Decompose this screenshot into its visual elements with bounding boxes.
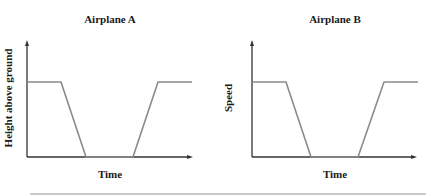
chart-airplane-a: Airplane A Height above ground Time xyxy=(0,0,213,196)
plot-area xyxy=(213,0,426,196)
plot-area xyxy=(0,0,213,196)
data-line xyxy=(252,82,418,157)
divider xyxy=(30,193,426,195)
axes xyxy=(250,40,417,159)
axes xyxy=(25,40,193,159)
data-line xyxy=(27,82,192,157)
chart-airplane-b: Airplane B Speed Time xyxy=(213,0,426,196)
